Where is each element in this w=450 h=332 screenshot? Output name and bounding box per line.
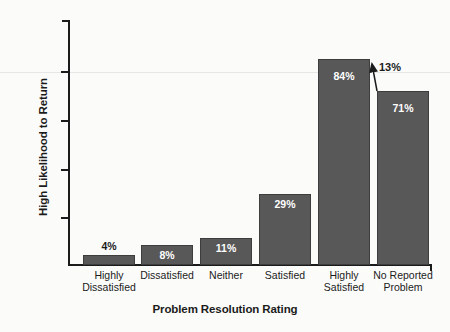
y-axis-top-cap xyxy=(62,20,69,22)
x-label-line-1: No Reported xyxy=(363,270,443,282)
x-label-line-2: Problem xyxy=(363,282,443,294)
bar-label-satisfied: 29% xyxy=(259,199,311,210)
bar-no-reported-problem[interactable] xyxy=(377,91,429,265)
x-label-line-2: Dissatisfied xyxy=(73,282,145,294)
bar-label-highly-satisfied: 84% xyxy=(318,71,370,82)
bar-label-dissatisfied: 8% xyxy=(141,250,193,261)
bar-label-neither: 11% xyxy=(200,243,252,254)
x-label-no-reported-problem: No Reported Problem xyxy=(363,270,443,293)
bar-highly-satisfied[interactable] xyxy=(318,59,370,265)
bar-label-highly-dissatisfied: 4% xyxy=(83,241,135,252)
bar-highly-dissatisfied[interactable] xyxy=(83,255,135,265)
bar-chart: High Likelihood to Return 100 80 60 40 2… xyxy=(0,0,450,332)
x-axis-title: Problem Resolution Rating xyxy=(0,303,450,315)
bar-label-no-reported-problem: 71% xyxy=(377,103,429,114)
y-axis-title: High Likelihood to Return xyxy=(37,27,49,267)
annotation-13-percent: 13% xyxy=(379,62,401,73)
y-axis-line xyxy=(68,20,70,266)
